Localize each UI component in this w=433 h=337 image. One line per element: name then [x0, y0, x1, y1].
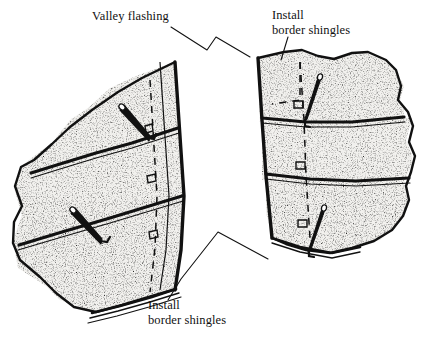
valley-flashing-figure: Valley flashing Install border shingles …: [0, 0, 433, 337]
install-border-shingles-top-label: Install border shingles: [272, 8, 350, 37]
right-shingle-course-1: [258, 50, 404, 122]
install-top-line1: Install: [272, 8, 304, 22]
install-bottom-line1: Install: [148, 298, 180, 312]
right-roof-plane: [258, 50, 412, 252]
install-border-shingles-bottom-label: Install border shingles: [148, 298, 226, 327]
valley-flashing-leader-line: [171, 27, 250, 57]
install-bottom-line2: border shingles: [148, 313, 226, 327]
roof-valley-diagram: Valley flashing Install border shingles …: [0, 0, 433, 337]
right-shingle-course-3: [266, 175, 408, 252]
install-top-line2: border shingles: [272, 23, 350, 37]
valley-flashing-label: Valley flashing: [92, 9, 169, 23]
